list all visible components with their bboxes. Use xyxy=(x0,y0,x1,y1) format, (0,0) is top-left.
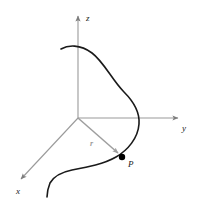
position-vector-label: r xyxy=(90,139,94,148)
y-axis: y xyxy=(78,118,186,133)
z-axis: z xyxy=(78,13,90,118)
x-axis-label: x xyxy=(15,186,20,196)
point-P-label: P xyxy=(127,159,134,169)
x-axis: x xyxy=(15,118,78,196)
point-P-marker xyxy=(119,154,125,160)
y-axis-label: y xyxy=(181,123,186,133)
position-vector: r xyxy=(78,118,118,153)
space-curve xyxy=(47,46,139,197)
position-vector-line xyxy=(78,118,118,153)
figure-container: z y x r P xyxy=(0,0,203,200)
z-axis-label: z xyxy=(85,13,90,23)
point-P-group: P xyxy=(119,154,134,169)
space-curve-diagram: z y x r P xyxy=(0,0,203,200)
